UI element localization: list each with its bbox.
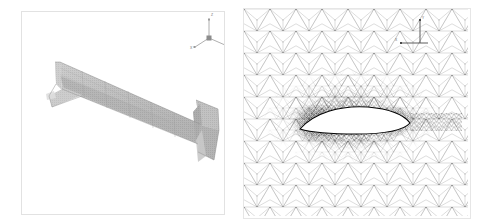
airfoil-mesh-render-stage: Y X bbox=[244, 9, 468, 216]
axis-triad-3d: Z Y X bbox=[187, 14, 225, 59]
airfoil-mesh-panel: Y X bbox=[243, 8, 471, 219]
triad2-x-label: X bbox=[395, 39, 397, 42]
triad2-y-tip bbox=[419, 19, 421, 21]
wing-render-stage: Z Y X bbox=[22, 12, 222, 212]
triad-z-tip bbox=[208, 19, 210, 21]
figure-root: Z Y X bbox=[0, 0, 483, 224]
axis-triad-3d-svg bbox=[187, 14, 225, 59]
triad-origin-cube bbox=[207, 36, 212, 41]
triad-x-label: X bbox=[190, 47, 192, 50]
axis-triad-2d-svg bbox=[394, 17, 436, 55]
mesh-wake-refinement bbox=[410, 113, 462, 131]
triad-x-tip bbox=[194, 46, 196, 48]
wing-lower-surface bbox=[60, 76, 200, 144]
triad2-y-label: Y bbox=[422, 17, 424, 20]
triad2-x-tip bbox=[400, 42, 402, 44]
wing-surface-mesh-panel: Z Y X bbox=[21, 11, 225, 215]
axis-triad-2d: Y X bbox=[394, 17, 436, 55]
triad-z-label: Z bbox=[211, 14, 213, 17]
